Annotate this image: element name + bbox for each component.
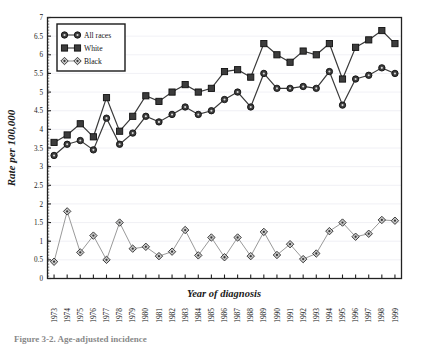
y-tick-label: 7 bbox=[39, 14, 43, 22]
data-point-center-circle bbox=[263, 72, 265, 74]
data-point-square bbox=[392, 41, 398, 47]
data-point-center-diamond bbox=[92, 234, 94, 236]
y-tick-label: 3 bbox=[39, 163, 43, 171]
x-axis-title: Year of diagnosis bbox=[187, 288, 261, 299]
data-point-square bbox=[248, 74, 254, 80]
data-point-center-circle bbox=[66, 143, 68, 145]
data-point-center-diamond bbox=[132, 248, 134, 250]
data-point-center-diamond bbox=[105, 259, 107, 261]
data-point-center-diamond bbox=[354, 236, 356, 238]
data-point-center-circle bbox=[250, 106, 252, 108]
x-tick-label: 1974 bbox=[63, 308, 72, 323]
legend-label: All races bbox=[84, 31, 111, 40]
data-point-square bbox=[287, 59, 293, 65]
data-point-center-diamond bbox=[118, 221, 120, 223]
data-point-center-diamond bbox=[315, 252, 317, 254]
data-point-square bbox=[235, 67, 241, 73]
data-point-square bbox=[169, 89, 175, 95]
x-tick-label: 1992 bbox=[299, 308, 308, 323]
legend-label: Black bbox=[84, 57, 102, 66]
data-point-square bbox=[300, 48, 306, 54]
chart-legend: All racesWhiteBlack bbox=[57, 24, 125, 71]
data-point-center-circle bbox=[210, 110, 212, 112]
data-point-center-circle bbox=[315, 87, 317, 89]
y-tick-label: 0 bbox=[39, 275, 43, 283]
x-tick-label: 1978 bbox=[115, 308, 124, 323]
data-point-center-diamond bbox=[210, 236, 212, 238]
data-point-center-diamond bbox=[368, 233, 370, 235]
y-tick-label: 1.5 bbox=[34, 219, 43, 227]
y-tick-label: 6.5 bbox=[34, 33, 43, 41]
data-point-square bbox=[221, 68, 227, 74]
x-tick-label: 1994 bbox=[325, 308, 334, 323]
data-point-center-diamond bbox=[171, 251, 173, 253]
data-point-center-circle bbox=[394, 72, 396, 74]
data-point-square bbox=[339, 76, 345, 82]
data-point-center-circle-legend bbox=[63, 34, 65, 36]
x-tick-label: 1985 bbox=[207, 308, 216, 323]
data-point-center-diamond bbox=[250, 255, 252, 257]
data-point-center-diamond bbox=[276, 254, 278, 256]
x-tick-label: 1976 bbox=[89, 308, 98, 323]
x-tick-label: 1975 bbox=[76, 308, 85, 323]
x-axis-tick-labels: 1973197419751976197719781979198019811982… bbox=[50, 308, 400, 323]
data-point-center-diamond-legend bbox=[63, 60, 65, 62]
data-point-center-circle bbox=[237, 91, 239, 93]
data-point-square bbox=[117, 128, 123, 134]
x-tick-label: 1991 bbox=[286, 308, 295, 323]
x-tick-label: 1996 bbox=[351, 308, 360, 323]
data-point-center-diamond bbox=[53, 261, 55, 263]
data-point-center-circle bbox=[171, 113, 173, 115]
x-tick-label: 1989 bbox=[259, 308, 268, 323]
y-tick-label: 0.5 bbox=[34, 256, 43, 264]
x-tick-label: 1979 bbox=[128, 308, 137, 323]
data-point-square-legend bbox=[74, 45, 80, 51]
data-point-center-diamond bbox=[66, 210, 68, 212]
data-point-center-circle bbox=[197, 113, 199, 115]
y-tick-label: 1 bbox=[39, 238, 43, 246]
y-tick-label: 5 bbox=[39, 89, 43, 97]
data-point-center-diamond bbox=[223, 256, 225, 258]
y-tick-label: 5.5 bbox=[34, 70, 43, 78]
data-point-center-diamond bbox=[184, 229, 186, 231]
data-point-center-circle bbox=[328, 71, 330, 73]
x-tick-label: 1986 bbox=[220, 308, 229, 323]
x-tick-label: 1999 bbox=[391, 308, 400, 323]
data-point-square bbox=[353, 44, 359, 50]
y-tick-label: 6 bbox=[39, 51, 43, 59]
x-tick-label: 1988 bbox=[246, 308, 255, 323]
legend-label: White bbox=[84, 44, 103, 53]
x-tick-label: 1995 bbox=[338, 308, 347, 323]
data-point-square bbox=[274, 52, 280, 58]
data-point-square bbox=[208, 85, 214, 91]
data-point-center-circle bbox=[368, 74, 370, 76]
data-point-center-diamond bbox=[158, 255, 160, 257]
data-point-center-diamond bbox=[79, 251, 81, 253]
data-point-square bbox=[143, 93, 149, 99]
data-point-center-circle bbox=[92, 149, 94, 151]
x-tick-label: 1983 bbox=[181, 308, 190, 323]
x-tick-label: 1987 bbox=[233, 308, 242, 323]
data-point-center-circle bbox=[132, 132, 134, 134]
data-point-center-circle bbox=[355, 78, 357, 80]
y-tick-label: 4 bbox=[39, 126, 43, 134]
x-tick-label: 1998 bbox=[377, 308, 386, 323]
x-tick-label: 1982 bbox=[168, 308, 177, 323]
data-point-center-circle bbox=[79, 139, 81, 141]
x-tick-label: 1980 bbox=[141, 308, 150, 323]
data-point-center-circle bbox=[158, 121, 160, 123]
data-point-center-circle bbox=[105, 117, 107, 119]
x-tick-label: 1977 bbox=[102, 308, 111, 323]
y-tick-label: 2 bbox=[39, 201, 43, 209]
data-point-square bbox=[64, 132, 70, 138]
data-point-center-diamond bbox=[145, 246, 147, 248]
data-point-square bbox=[326, 41, 332, 47]
x-tick-label: 1973 bbox=[50, 308, 59, 323]
data-point-center-circle bbox=[53, 154, 55, 156]
data-point-square bbox=[130, 113, 136, 119]
data-point-center-diamond bbox=[236, 236, 238, 238]
figure-caption: Figure 3-2. Age-adjusted incidence bbox=[14, 334, 414, 345]
y-tick-label: 3.5 bbox=[34, 145, 43, 153]
data-point-square bbox=[313, 52, 319, 58]
x-tick-label: 1997 bbox=[364, 308, 373, 323]
